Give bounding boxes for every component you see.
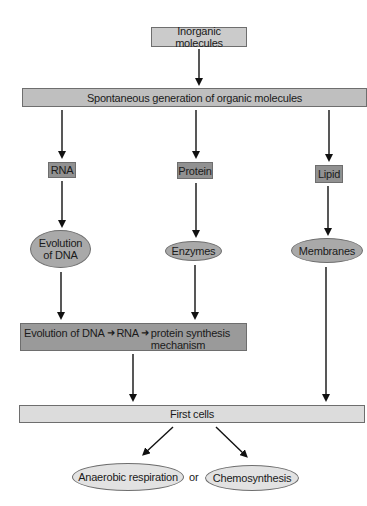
inorganic-molecules-box: Inorganic molecules xyxy=(151,27,247,47)
evolution-of-dna-ellipse: Evolution of DNA xyxy=(30,230,91,268)
mechanism-part2: RNA xyxy=(116,327,139,339)
anaerobic-respiration-label: Anaerobic respiration xyxy=(78,471,178,483)
evolution-of-dna-line1: Evolution xyxy=(39,237,82,249)
protein-synthesis-mechanism-box: Evolution of DNA ➜ RNA ➜ protein synthes… xyxy=(20,323,247,351)
mechanism-part3-line1: protein synthesis xyxy=(151,327,230,339)
arrow-first-cells-to-chemosynthesis xyxy=(216,427,245,455)
membranes-label: Membranes xyxy=(299,245,355,257)
mechanism-part3: protein synthesis mechanism xyxy=(151,327,230,351)
mechanism-part1: Evolution of DNA xyxy=(24,327,105,339)
mechanism-part3-line2: mechanism xyxy=(151,339,230,351)
chemosynthesis-ellipse: Chemosynthesis xyxy=(205,465,299,491)
lipid-box: Lipid xyxy=(315,165,343,183)
first-cells-label: First cells xyxy=(170,408,214,420)
anaerobic-respiration-ellipse: Anaerobic respiration xyxy=(72,463,184,491)
or-label: or xyxy=(189,471,199,483)
membranes-ellipse: Membranes xyxy=(291,238,363,263)
rna-label: RNA xyxy=(51,164,74,176)
protein-box: Protein xyxy=(177,162,213,179)
chemosynthesis-label: Chemosynthesis xyxy=(213,472,292,484)
enzymes-ellipse: Enzymes xyxy=(165,241,222,261)
lipid-label: Lipid xyxy=(318,168,340,180)
first-cells-bar: First cells xyxy=(19,405,365,423)
arrow-right-icon: ➜ xyxy=(141,327,149,339)
arrow-first-cells-to-anaerobic xyxy=(145,427,173,453)
spontaneous-generation-bar: Spontaneous generation of organic molecu… xyxy=(22,88,367,107)
rna-box: RNA xyxy=(48,162,76,178)
arrow-right-icon: ➜ xyxy=(107,327,115,339)
enzymes-label: Enzymes xyxy=(172,245,216,257)
evolution-of-dna-line2: of DNA xyxy=(43,249,77,261)
inorganic-molecules-label: Inorganic molecules xyxy=(152,25,246,49)
protein-label: Protein xyxy=(178,165,211,177)
spontaneous-generation-label: Spontaneous generation of organic molecu… xyxy=(87,92,302,104)
